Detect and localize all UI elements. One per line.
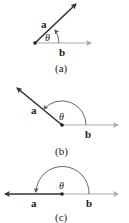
caption-c: (c) [55,211,68,223]
angle-arc [44,101,86,125]
vector-a [17,88,62,125]
label-b: b [59,46,65,58]
label-theta: θ [45,32,50,43]
origin-dot [60,192,64,196]
origin-dot [60,123,64,127]
panel-c: a θ b (c) [5,166,118,223]
panel-a: a θ b (a) [33,4,91,75]
label-a: a [31,197,37,209]
panel-b: a θ b (b) [17,88,118,158]
caption-b: (b) [55,145,68,158]
origin-dot [33,41,37,45]
label-theta: θ [59,111,64,122]
label-a: a [41,18,47,30]
label-b: b [85,128,91,140]
label-theta: θ [59,180,64,191]
angle-between-vectors-diagram: a θ b (a) a θ b (b) a θ b (c) [0,0,129,223]
caption-a: (a) [55,62,68,75]
angle-arc [55,30,59,43]
label-a: a [31,104,37,116]
label-b: b [86,197,92,209]
